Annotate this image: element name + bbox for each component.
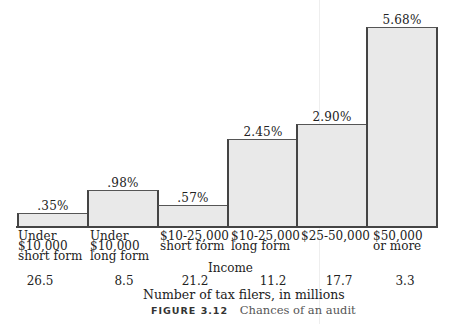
- x-axis-line: [16, 226, 438, 228]
- category-label: $10-25,000 short form: [160, 231, 240, 251]
- figure-title: Chances of an audit: [240, 303, 356, 317]
- filer-count: 17.7: [304, 274, 374, 288]
- category-line: short form: [18, 251, 98, 261]
- figure-caption: FIGURE 3.12 Chances of an audit: [151, 303, 356, 317]
- filer-count: 26.5: [5, 274, 75, 288]
- bar-10-25k-short: [157, 205, 229, 226]
- bar-value-label: .35%: [18, 199, 88, 213]
- bar-under-10k-short: [17, 213, 89, 226]
- bar-value-label: 2.90%: [297, 110, 367, 124]
- category-label: Under $10,000 long form: [90, 231, 170, 261]
- category-label: $10-25,000 long form: [231, 231, 311, 251]
- category-label: $50,000 or more: [373, 231, 453, 251]
- bar-under-10k-long: [87, 190, 159, 226]
- filer-count: 21.2: [160, 274, 230, 288]
- bar-50k-plus: [366, 27, 438, 226]
- bar-value-label: 2.45%: [228, 125, 298, 139]
- secondary-axis-title: Number of tax filers, in millions: [143, 287, 345, 302]
- bar-25-50k: [296, 124, 368, 226]
- bar-value-label: .98%: [88, 176, 158, 190]
- audit-chances-bar-chart: .35% .98% .57% 2.45% 2.90% 5.68% Under $…: [0, 0, 455, 324]
- bar-value-label: .57%: [158, 191, 228, 205]
- bar-value-label: 5.68%: [367, 13, 437, 27]
- category-label: Under $10,000 short form: [18, 231, 98, 261]
- x-axis-title: Income: [208, 261, 253, 275]
- figure-number: FIGURE 3.12: [151, 305, 228, 316]
- filer-count: 11.2: [238, 274, 308, 288]
- filer-count: 8.5: [89, 274, 159, 288]
- category-line: $25-50,000: [301, 231, 381, 241]
- category-line: long form: [90, 251, 170, 261]
- category-label: $25-50,000: [301, 231, 381, 241]
- category-line: or more: [373, 241, 453, 251]
- bar-10-25k-long: [227, 139, 298, 226]
- filer-count: 3.3: [370, 274, 440, 288]
